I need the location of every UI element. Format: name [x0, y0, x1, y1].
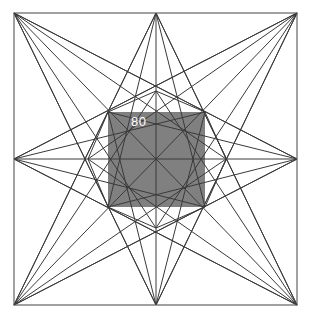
- label-group: 80: [131, 114, 146, 129]
- center-spoke-group: [14, 13, 297, 305]
- inner-square-label: 80: [131, 114, 146, 129]
- figure-container: 80: [0, 0, 312, 321]
- star-polygon-figure: 80: [0, 0, 312, 321]
